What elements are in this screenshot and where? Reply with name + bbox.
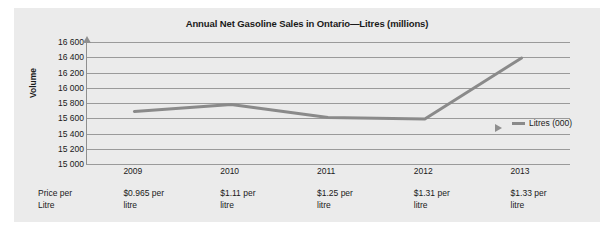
x-axis-tick-label: 2013	[511, 166, 530, 176]
y-axis-tick-label: 16 400	[58, 52, 84, 62]
price-cell-line1: $1.25 per	[317, 188, 353, 198]
price-per-litre-row: Price per Litre $0.965 perlitre$1.11 per…	[14, 188, 600, 218]
chart-legend: Litres (000)	[512, 118, 572, 128]
x-axis-tick-label: 2010	[220, 166, 239, 176]
y-axis-tick-label: 15 400	[58, 129, 84, 139]
price-cell-line1: $1.33 per	[511, 188, 547, 198]
x-axis-arrow-icon	[495, 124, 502, 132]
price-cell-line2: litre	[511, 200, 525, 210]
price-cell: $1.11 perlitre	[220, 188, 292, 211]
price-cell: $1.25 perlitre	[317, 188, 389, 211]
price-cell-line1: $1.11 per	[220, 188, 255, 198]
x-axis-tick-labels: 20092010201120122013	[86, 166, 570, 180]
chart-figure: Annual Net Gasoline Sales in Ontario—Lit…	[14, 8, 600, 222]
price-cell-line2: litre	[317, 200, 331, 210]
y-axis-tick-labels: 15 00015 20015 40015 60015 80016 00016 2…	[38, 42, 84, 164]
y-axis-tick-label: 16 600	[58, 37, 84, 47]
price-cell-line1: $1.31 per	[414, 188, 450, 198]
y-axis-tick-label: 16 000	[58, 83, 84, 93]
price-row-header-line1: Price per	[38, 188, 72, 198]
price-row-header-line2: Litre	[38, 200, 55, 210]
price-cell-line2: litre	[414, 200, 428, 210]
y-axis-tick-label: 15 200	[58, 144, 84, 154]
legend-label-litres: Litres (000)	[529, 118, 572, 128]
price-cell-line1: $0.965 per	[123, 188, 164, 198]
y-axis-tick-label: 15 000	[58, 159, 84, 169]
series-line-litres	[86, 42, 570, 164]
y-axis-label: Volume	[28, 84, 38, 98]
y-axis-tick-label: 15 600	[58, 113, 84, 123]
y-axis-tick-label: 15 800	[58, 98, 84, 108]
price-cell: $0.965 perlitre	[123, 188, 195, 211]
chart-title: Annual Net Gasoline Sales in Ontario—Lit…	[14, 18, 600, 29]
price-cell: $1.31 perlitre	[414, 188, 486, 211]
plot-area	[86, 42, 570, 164]
price-cell: $1.33 perlitre	[511, 188, 583, 211]
legend-swatch-litres	[512, 122, 525, 125]
x-axis-tick-label: 2012	[414, 166, 433, 176]
price-cell-line2: litre	[123, 200, 137, 210]
x-axis-tick-label: 2011	[317, 166, 335, 176]
y-axis-tick-label: 16 200	[58, 68, 84, 78]
price-row-header: Price per Litre	[38, 188, 100, 211]
x-axis-tick-label: 2009	[123, 166, 142, 176]
gridline	[86, 164, 570, 165]
price-cell-line2: litre	[220, 200, 234, 210]
